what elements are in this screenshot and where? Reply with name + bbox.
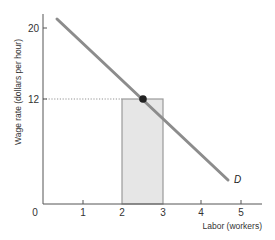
demand-for-labor-chart: 20 12 0 1 2 3 4 5 Labor (workers) Wage r… <box>0 0 275 240</box>
x-tick-label-5: 5 <box>238 207 244 218</box>
y-axis-title: Wage rate (dollars per hour) <box>13 39 23 145</box>
x-tick-label-0: 0 <box>32 207 38 218</box>
y-tick-label-20: 20 <box>28 23 40 34</box>
x-tick-label-2: 2 <box>119 207 125 218</box>
x-tick-label-3: 3 <box>160 207 166 218</box>
x-axis-title: Labor (workers) <box>202 221 262 231</box>
demand-curve-label: D <box>234 174 241 185</box>
x-tick-label-4: 4 <box>198 207 204 218</box>
y-tick-label-12: 12 <box>28 94 40 105</box>
wage-point <box>139 95 147 103</box>
x-tick-label-1: 1 <box>80 207 86 218</box>
